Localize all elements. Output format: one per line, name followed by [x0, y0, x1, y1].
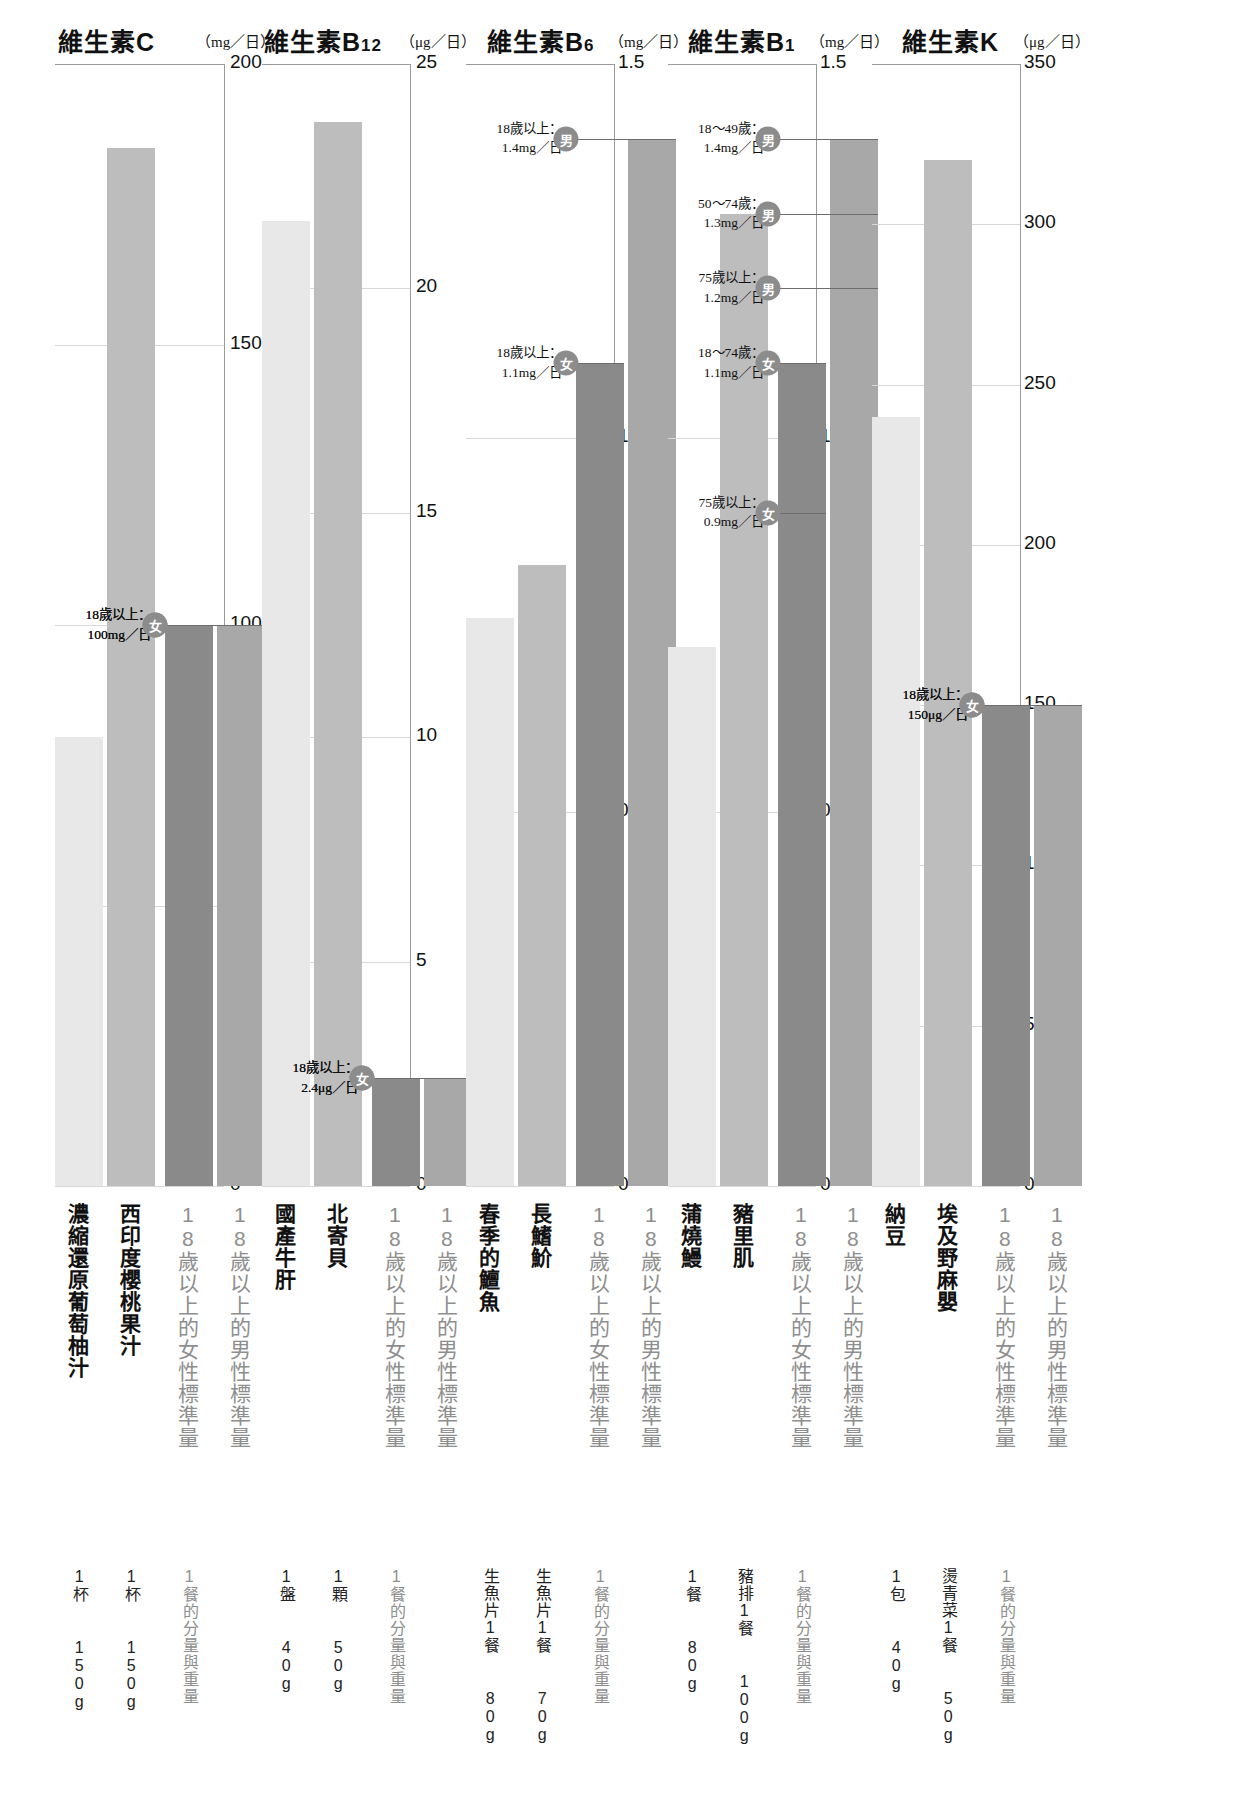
- category-label-vitB12-3: 18歲以上的男性標準量: [436, 1203, 457, 1449]
- category-label-vitK-0: 納豆: [884, 1203, 905, 1247]
- panel-title-vitK: 維生素K: [902, 22, 999, 58]
- quantity-label-vitB1-2: 1餐的分量與重量: [793, 1568, 810, 1705]
- category-label-vitC-1: 西印度櫻桃果汁: [119, 1203, 140, 1357]
- callout-badge-female-icon: 女: [143, 613, 168, 638]
- callout-vitB1-4: 75歲以上：0.9mg／日女: [768, 512, 769, 514]
- y-tick-label: 200: [1024, 532, 1056, 554]
- callout-badge-female-icon: 女: [554, 351, 579, 376]
- panel-unit-vitB1: （mg／日）: [810, 30, 889, 51]
- plot-y-axis: [410, 64, 411, 1186]
- panel-unit-vitB12: （μg／日）: [400, 30, 476, 51]
- panel-title-subscript: 1: [785, 36, 795, 55]
- bar-vitB12-3: [424, 1078, 472, 1186]
- callout-leader-line: [778, 288, 878, 289]
- bar-vitB1-0: [668, 647, 716, 1186]
- callout-leader-line: [576, 363, 624, 364]
- bar-vitK-0: [872, 417, 920, 1186]
- bar-vitC-3: [217, 625, 265, 1186]
- callout-leader-line: [372, 1078, 420, 1079]
- callout-line2: 1.3mg／日: [698, 214, 764, 234]
- category-label-vitC-3: 18歲以上的男性標準量: [229, 1203, 250, 1449]
- callout-vitB6-0: 18歲以上：1.4mg／日男: [566, 138, 567, 140]
- gridline: [466, 1186, 614, 1187]
- quantity-label-vitC-0: 1杯 150g: [70, 1568, 87, 1711]
- category-label-vitB1-0: 蒲燒鰻: [680, 1203, 701, 1269]
- callout-line1: 18～49歲：: [698, 121, 764, 136]
- y-tick-label: 350: [1024, 51, 1056, 73]
- y-tick-label: 150: [230, 332, 262, 354]
- bar-vitC-1: [107, 148, 155, 1186]
- quantity-label-vitB12-1: 1顆 50g: [329, 1568, 346, 1693]
- bar-vitB1-3: [830, 139, 878, 1186]
- bar-vitK-1: [924, 160, 972, 1186]
- callout-line1: 18歲以上：: [293, 1061, 359, 1076]
- callout-badge-male-icon: 男: [756, 201, 781, 226]
- panel-title-vitB1: 維生素B1: [688, 22, 796, 58]
- callout-badge-female-icon: 女: [756, 351, 781, 376]
- callout-leader-line: [778, 513, 826, 514]
- category-label-vitK-1: 埃及野麻嬰: [936, 1203, 957, 1313]
- category-label-vitB1-1: 豬里肌: [732, 1203, 753, 1269]
- callout-badge-male-icon: 男: [756, 126, 781, 151]
- callout-line2: 2.4μg／日: [293, 1078, 359, 1098]
- panel-unit-vitB6: （mg／日）: [609, 30, 688, 51]
- category-label-vitB12-0: 國產牛肝: [274, 1203, 295, 1291]
- callout-leader-line: [165, 625, 213, 626]
- callout-vitB6-1: 18歲以上：1.1mg／日女: [566, 362, 567, 364]
- y-tick-label: 1.5: [618, 51, 644, 73]
- callout-line2: 0.9mg／日: [699, 513, 765, 533]
- category-label-vitB6-1: 長鰭魪: [530, 1203, 551, 1269]
- callout-leader-line: [778, 214, 878, 215]
- category-label-vitC-2: 18歲以上的女性標準量: [177, 1203, 198, 1449]
- quantity-label-vitK-1: 燙青菜1餐 50g: [939, 1568, 956, 1744]
- bar-vitC-2: [165, 625, 213, 1186]
- callout-leader-line: [778, 139, 878, 140]
- y-tick-label: 25: [416, 51, 437, 73]
- category-label-vitB12-1: 北寄貝: [326, 1203, 347, 1269]
- quantity-label-vitK-2: 1餐的分量與重量: [997, 1568, 1014, 1705]
- bar-vitB12-1: [314, 122, 362, 1186]
- category-label-vitB12-2: 18歲以上的女性標準量: [384, 1203, 405, 1449]
- panel-title-vitB6: 維生素B6: [487, 22, 595, 58]
- bar-vitK-2: [982, 705, 1030, 1186]
- plot-top-line: [466, 64, 614, 65]
- y-tick-label: 20: [416, 275, 437, 297]
- quantity-label-vitC-1: 1杯 150g: [122, 1568, 139, 1711]
- panel-title-vitB12: 維生素B12: [264, 22, 382, 58]
- quantity-label-vitB6-0: 生魚片1餐 80g: [481, 1568, 498, 1744]
- callout-line1: 75歲以上：: [699, 495, 765, 510]
- quantity-label-vitC-2: 1餐的分量與重量: [180, 1568, 197, 1705]
- gridline: [55, 1186, 224, 1187]
- callout-line2: 150μg／日: [903, 705, 969, 725]
- callout-line2: 100mg／日: [86, 625, 152, 645]
- bar-vitB6-0: [466, 618, 514, 1186]
- callout-vitB1-0: 18～49歲：1.4mg／日男: [768, 138, 769, 140]
- quantity-label-vitB12-2: 1餐的分量與重量: [387, 1568, 404, 1705]
- callout-vitC-1: 18歲以上：100mg／日女: [155, 624, 156, 626]
- category-label-vitB1-3: 18歲以上的男性標準量: [842, 1203, 863, 1449]
- quantity-label-vitB1-0: 1餐 80g: [683, 1568, 700, 1693]
- y-tick-label: 1.5: [820, 51, 846, 73]
- callout-line1: 75歲以上：: [699, 271, 765, 286]
- category-label-vitB6-3: 18歲以上的男性標準量: [640, 1203, 661, 1449]
- panel-title-main: 維生素K: [902, 28, 999, 56]
- panel-unit-vitK: （μg／日）: [1014, 30, 1090, 51]
- panel-title-main: 維生素B: [487, 28, 584, 56]
- quantity-label-vitK-0: 1包 40g: [887, 1568, 904, 1693]
- callout-leader-line: [778, 363, 826, 364]
- callout-line2: 1.1mg／日: [497, 363, 563, 383]
- callout-badge-female-icon: 女: [350, 1066, 375, 1091]
- callout-line2: 1.4mg／日: [497, 139, 563, 159]
- panel-title-subscript: 12: [361, 36, 382, 55]
- panel-title-main: 維生素B: [688, 28, 785, 56]
- callout-vitB12-1: 18歲以上：2.4μg／日女: [362, 1077, 363, 1079]
- panel-title-main: 維生素C: [58, 28, 155, 56]
- callout-line1: 18歲以上：: [497, 121, 563, 136]
- chart-board: 維生素C（mg／日）05010015020018歲以上：100mg／日男18歲以…: [0, 0, 1249, 1802]
- callout-badge-male-icon: 男: [554, 126, 579, 151]
- callout-vitK-1: 18歲以上：150μg／日女: [972, 704, 973, 706]
- y-tick-label: 200: [230, 51, 262, 73]
- callout-line1: 18～74歲：: [698, 346, 764, 361]
- callout-vitB1-1: 50～74歲：1.3mg／日男: [768, 213, 769, 215]
- y-tick-label: 5: [416, 949, 427, 971]
